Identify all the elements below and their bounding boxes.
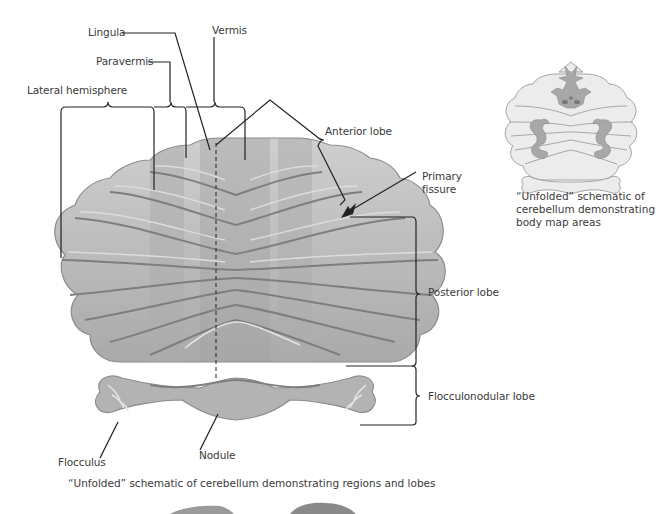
partial-next-figure	[0, 0, 662, 514]
